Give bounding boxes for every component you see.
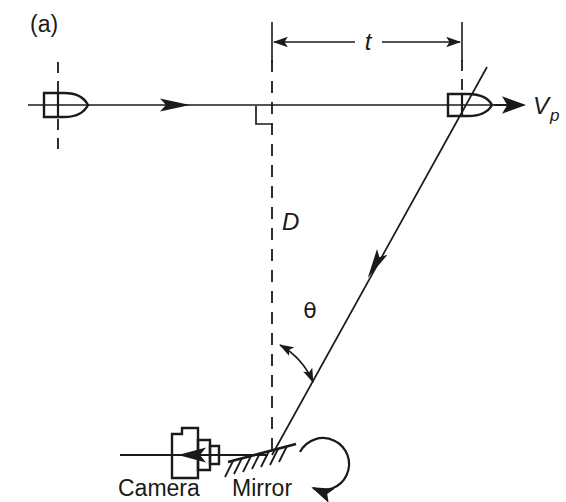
diagram-canvas: (a) t: [0, 0, 566, 502]
mirror: [225, 444, 296, 477]
dimension-t-group: t: [272, 22, 462, 62]
label-angle-theta: θ: [303, 298, 316, 323]
mirror-rotation-arrow: [300, 438, 349, 490]
velocity-subscript: p: [549, 106, 559, 125]
label-velocity: Vp: [533, 92, 559, 125]
panel-label: (a): [30, 11, 58, 37]
angle-theta-group: θ: [280, 298, 317, 382]
rotation-arc: [300, 438, 349, 490]
label-camera: Camera: [118, 475, 200, 501]
figure-container: (a) t: [0, 0, 566, 502]
velocity-symbol: V: [533, 92, 551, 119]
label-distance-D: D: [282, 208, 299, 235]
right-angle-marker: [256, 106, 272, 124]
angle-theta-arc: [280, 345, 313, 382]
label-mirror: Mirror: [232, 475, 292, 501]
label-distance-t: t: [365, 28, 373, 55]
